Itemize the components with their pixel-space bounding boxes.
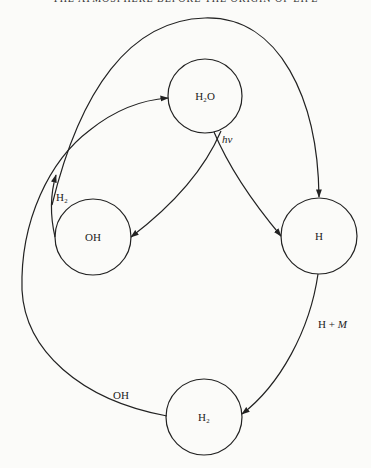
node-oh-label: OH: [85, 232, 101, 243]
edge-h-to-h2: [242, 274, 318, 414]
edge-label-h-plus-prefix: H +: [318, 318, 338, 330]
edge-h2-to-h2o: [22, 98, 168, 416]
edge-label-hv: hν: [222, 134, 232, 145]
edge-oh-to-h-arc: [52, 18, 319, 205]
node-h2o-label: H₂O: [195, 91, 215, 102]
edge-h2o-to-oh: [131, 131, 221, 237]
edge-oh-h2-branch: [51, 175, 56, 237]
node-h2-label: H₂: [198, 412, 210, 423]
edge-label-h-plus-m: H + M: [318, 319, 347, 330]
edge-label-oh: OH: [113, 390, 129, 401]
edge-h2o-to-h: [214, 132, 281, 236]
node-h-label: H: [315, 231, 323, 242]
edge-label-m: M: [338, 318, 347, 330]
edge-label-h2: H₂: [56, 192, 68, 203]
